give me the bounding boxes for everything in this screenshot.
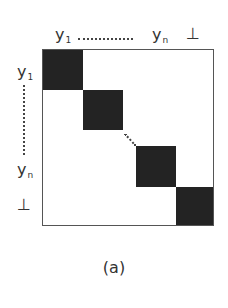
block-yn (136, 146, 176, 187)
diagonal-ellipsis-dots (124, 133, 136, 146)
figure-caption: (a) (0, 258, 228, 277)
row-label-bottom: ⊥ (17, 197, 31, 213)
row-ellipsis-dots (23, 85, 25, 155)
block-diagonal-matrix (42, 49, 214, 226)
row-label-yn: yn (17, 162, 33, 180)
block-y1 (43, 50, 83, 90)
block-bottom (176, 187, 213, 225)
col-label-bottom: ⊥ (186, 26, 200, 42)
row-label-y1: y1 (17, 64, 33, 82)
col-label-y1: y1 (55, 27, 71, 45)
block-y2 (83, 90, 123, 130)
col-ellipsis-dots (78, 38, 133, 40)
col-label-yn: yn (152, 27, 168, 45)
